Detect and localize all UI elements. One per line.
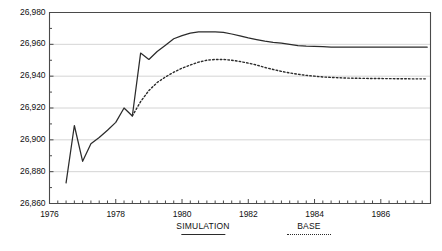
- chart-container: 26,86026,88026,90026,92026,94026,96026,9…: [0, 0, 442, 251]
- data-series-layer: [66, 32, 427, 183]
- series-line-base: [132, 59, 427, 116]
- x-axis-minor-ticks: [50, 199, 431, 204]
- chart-plot-area: [0, 0, 442, 251]
- y-axis-minor-ticks: [50, 13, 54, 204]
- series-line-simulation: [66, 32, 427, 183]
